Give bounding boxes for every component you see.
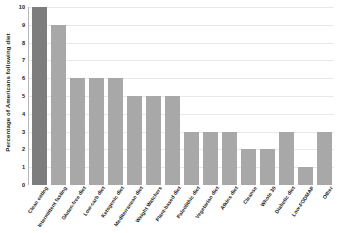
- x-axis-tick: Whole 30: [259, 185, 277, 208]
- y-axis-tick: 5: [22, 93, 25, 99]
- x-axis-tick-labels: Clean eatingIntermittent fastingGluten-f…: [29, 185, 335, 233]
- bar: [127, 96, 142, 185]
- y-axis-tick: 9: [22, 22, 25, 28]
- bar-series: [29, 7, 334, 185]
- y-axis-title: Percentage of Americans following diet: [0, 0, 14, 185]
- y-axis-tick: 6: [22, 75, 25, 81]
- bar: [279, 132, 294, 185]
- bar: [298, 167, 313, 185]
- y-axis-tick: 10: [19, 4, 25, 10]
- bar: [317, 132, 332, 185]
- y-axis-tick: 2: [22, 146, 25, 152]
- x-axis-tick: Cleanse: [241, 185, 257, 205]
- bar: [184, 132, 199, 185]
- y-axis-tick: 1: [22, 164, 25, 170]
- y-axis-tick-labels: 012345678910: [14, 0, 27, 185]
- x-axis-tick: Other: [321, 185, 334, 200]
- y-axis-title-text: Percentage of Americans following diet: [4, 33, 11, 152]
- bar: [260, 149, 275, 185]
- y-axis-tick: 7: [22, 57, 25, 63]
- bar: [241, 149, 256, 185]
- bar: [222, 132, 237, 185]
- bar: [108, 78, 123, 185]
- bar: [32, 7, 47, 185]
- y-axis-tick: 0: [22, 182, 25, 188]
- plot-area: [28, 7, 334, 185]
- y-axis-tick: 8: [22, 40, 25, 46]
- bar: [165, 96, 180, 185]
- bar: [51, 25, 66, 185]
- y-axis-tick: 4: [22, 111, 25, 117]
- bar: [146, 96, 161, 185]
- bar-chart: Percentage of Americans following diet 0…: [0, 0, 338, 233]
- bar: [70, 78, 85, 185]
- bar: [203, 132, 218, 185]
- x-axis-tick: Atkins diet: [218, 185, 238, 211]
- y-axis-tick: 3: [22, 129, 25, 135]
- bar: [89, 78, 104, 185]
